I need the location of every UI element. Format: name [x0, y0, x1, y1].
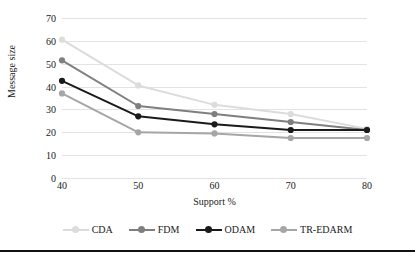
- y-axis-tick-labels: 010203040506070: [26, 18, 56, 178]
- legend-item-odam[interactable]: ODAM: [196, 224, 256, 235]
- data-point-odam: [364, 127, 370, 133]
- legend-item-fdm[interactable]: FDM: [129, 224, 180, 235]
- y-tick-label: 10: [46, 150, 56, 161]
- data-point-fdm: [135, 103, 141, 109]
- x-tick-label: 50: [133, 180, 143, 191]
- legend-item-tr-edarm[interactable]: TR-EDARM: [271, 224, 352, 235]
- chart-legend: CDAFDMODAMTR-EDARM: [0, 224, 415, 235]
- y-axis-title: Message size: [6, 45, 17, 98]
- data-point-tr-edarm: [211, 130, 217, 136]
- y-tick-label: 20: [46, 127, 56, 138]
- data-point-odam: [211, 121, 217, 127]
- data-point-tr-edarm: [364, 135, 370, 141]
- y-tick-label: 50: [46, 58, 56, 69]
- x-tick-label: 40: [57, 180, 67, 191]
- legend-label: CDA: [92, 224, 113, 235]
- line-chart-svg: [62, 18, 367, 178]
- legend-swatch-icon: [196, 225, 222, 235]
- x-tick-label: 70: [286, 180, 296, 191]
- y-tick-label: 40: [46, 81, 56, 92]
- x-axis-title: Support %: [62, 196, 367, 207]
- bottom-rule: [0, 250, 415, 252]
- data-point-tr-edarm: [135, 129, 141, 135]
- y-tick-label: 0: [51, 173, 56, 184]
- data-point-fdm: [59, 57, 65, 63]
- data-point-cda: [288, 111, 294, 117]
- gridline: [62, 178, 367, 179]
- data-point-fdm: [288, 119, 294, 125]
- legend-swatch-icon: [129, 225, 155, 235]
- data-point-fdm: [211, 111, 217, 117]
- legend-swatch-icon: [271, 225, 297, 235]
- data-point-odam: [59, 78, 65, 84]
- legend-label: TR-EDARM: [300, 224, 352, 235]
- chart-figure: 010203040506070 4050607080 Support % Mes…: [0, 0, 415, 260]
- legend-label: FDM: [158, 224, 180, 235]
- x-tick-label: 60: [210, 180, 220, 191]
- legend-item-cda[interactable]: CDA: [63, 224, 113, 235]
- y-tick-label: 30: [46, 104, 56, 115]
- legend-label: ODAM: [225, 224, 256, 235]
- y-tick-label: 60: [46, 35, 56, 46]
- data-point-cda: [211, 102, 217, 108]
- data-point-odam: [135, 113, 141, 119]
- x-axis-tick-labels: 4050607080: [62, 180, 367, 196]
- data-point-cda: [59, 37, 65, 43]
- y-tick-label: 70: [46, 13, 56, 24]
- data-point-tr-edarm: [59, 90, 65, 96]
- legend-swatch-icon: [63, 225, 89, 235]
- data-point-tr-edarm: [288, 135, 294, 141]
- data-point-odam: [288, 127, 294, 133]
- x-tick-label: 80: [362, 180, 372, 191]
- plot-area: [62, 18, 367, 178]
- data-point-cda: [135, 82, 141, 88]
